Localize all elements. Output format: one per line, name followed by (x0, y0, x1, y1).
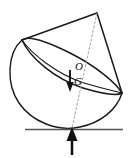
label-weight-G: G (74, 75, 82, 87)
label-center-O: O (75, 60, 83, 72)
figure-container: O G (0, 0, 129, 158)
cone-hemisphere-diagram: O G (0, 0, 129, 158)
